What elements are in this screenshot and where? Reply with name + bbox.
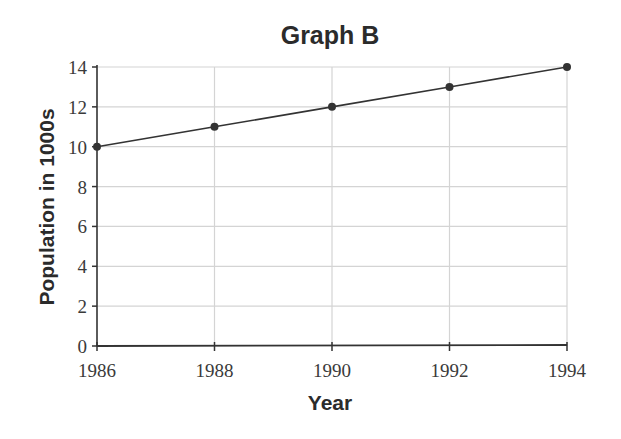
x-tick-label: 1992: [431, 360, 469, 381]
y-tick-label: 6: [78, 216, 88, 237]
chart: Graph B 02468101214 19861988199019921994…: [0, 0, 621, 439]
y-tick-label: 14: [68, 57, 88, 78]
y-tick-label: 2: [78, 296, 88, 317]
chart-title: Graph B: [281, 21, 380, 49]
data-point: [563, 63, 571, 71]
y-tick-label: 4: [78, 256, 88, 277]
data-point: [446, 83, 454, 91]
y-tick-label: 8: [78, 177, 88, 198]
y-tick-label: 12: [68, 97, 87, 118]
y-axis-label: Population in 1000s: [35, 108, 58, 305]
y-tick-label: 10: [68, 137, 87, 158]
y-tick-label: 0: [78, 336, 88, 357]
x-tick-label: 1986: [78, 360, 116, 381]
x-axis-line: [97, 345, 567, 346]
x-tick-label: 1994: [548, 360, 587, 381]
x-axis-label: Year: [308, 391, 352, 414]
x-tick-label: 1988: [196, 360, 234, 381]
data-point: [93, 143, 101, 151]
data-point: [328, 103, 336, 111]
data-point: [211, 123, 219, 131]
x-tick-label: 1990: [313, 360, 351, 381]
y-tick-labels: 02468101214: [68, 57, 88, 357]
x-tick-labels: 19861988199019921994: [78, 360, 587, 381]
